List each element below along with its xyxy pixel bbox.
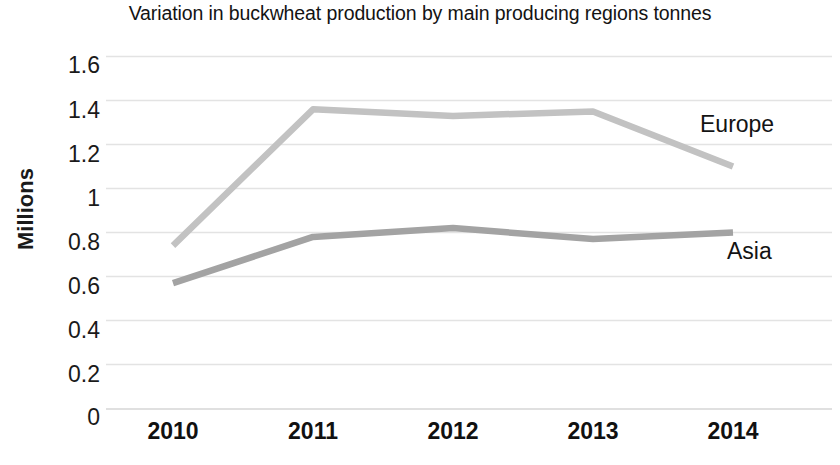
series-line-asia xyxy=(173,228,733,283)
plot-area xyxy=(0,0,840,465)
gridlines xyxy=(106,57,832,365)
line-chart: Variation in buckwheat production by mai… xyxy=(0,0,840,465)
series-lines xyxy=(173,109,733,283)
